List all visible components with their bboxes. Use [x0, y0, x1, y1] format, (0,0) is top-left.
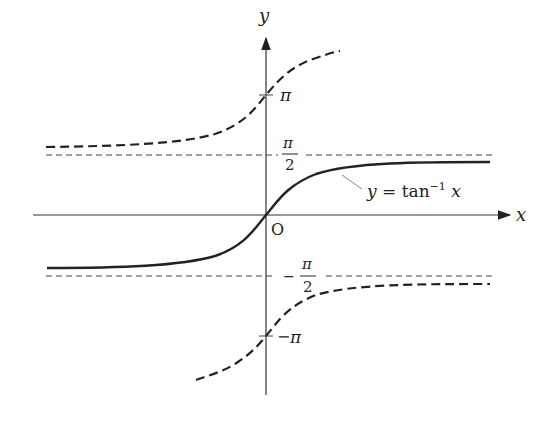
curve-equation-label: y = tan−1 x: [366, 180, 461, 201]
neg-half-pi-numerator: π: [301, 255, 313, 273]
upper-branch-curve: [46, 51, 340, 147]
half-pi-numerator: π: [282, 134, 294, 152]
pi-label: π: [279, 85, 292, 105]
neg-half-pi-denominator: 2: [303, 278, 313, 296]
y-axis-label: y: [258, 5, 270, 26]
half-pi-denominator: 2: [285, 156, 295, 174]
x-axis-label: x: [516, 204, 526, 225]
arctan-diagram: y x O π − π π 2 − π 2 y = tan−1 x: [0, 0, 547, 424]
origin-label: O: [271, 220, 284, 239]
neg-pi-sign: −: [277, 327, 290, 346]
neg-pi-label: π: [289, 327, 302, 347]
neg-half-pi-sign: −: [283, 268, 295, 284]
lower-branch-curve: [196, 284, 490, 380]
curve-label-leader: [342, 175, 362, 189]
